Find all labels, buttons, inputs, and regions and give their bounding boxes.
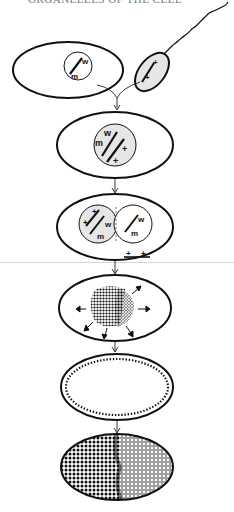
stage-mosaic: [60, 432, 176, 502]
peripheral-nuclei: [66, 359, 168, 415]
label-plus: +: [145, 73, 150, 82]
genetic-diagram: w m + + w m + + + + w m w m: [0, 0, 234, 512]
label-w: w: [103, 128, 112, 138]
label-plus: +: [92, 207, 97, 216]
label-plus: +: [113, 156, 118, 166]
label-plus: +: [122, 144, 127, 154]
sperm-tail: [164, 2, 228, 54]
label-m: m: [131, 229, 138, 238]
stage-gametes: w m + +: [13, 2, 228, 110]
label-m: m: [97, 232, 104, 241]
label-plus: +: [126, 249, 131, 258]
merge-bracket: [97, 82, 140, 98]
stage-blastoderm: [61, 354, 173, 433]
label-plus: +: [83, 218, 88, 227]
stage-nuclear-burst: [59, 275, 171, 352]
label-plus: +: [141, 249, 146, 258]
stage-zygote: w m + +: [57, 112, 173, 193]
cell: [61, 354, 173, 420]
sperm-head: [128, 47, 176, 98]
label-w: w: [104, 220, 112, 229]
label-plus: +: [153, 58, 158, 67]
stage-fused-nuclei: + + w m w m + +: [57, 194, 173, 274]
label-w: w: [81, 57, 89, 66]
label-m: m: [71, 72, 78, 81]
label-w: w: [137, 215, 145, 224]
label-m: m: [95, 138, 103, 148]
